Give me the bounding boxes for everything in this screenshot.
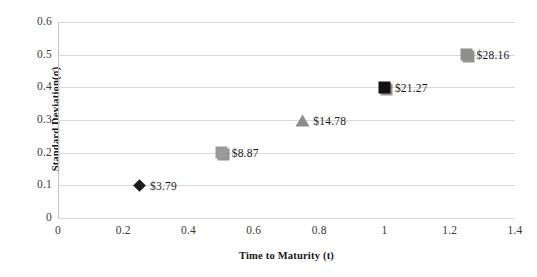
y-tick-label: 0.3 [6, 114, 52, 126]
marker-square-icon [378, 81, 390, 93]
x-axis-title: Time to Maturity (t) [58, 250, 515, 261]
x-tick-label: 1.2 [420, 224, 480, 236]
data-point-label: $14.78 [313, 114, 346, 126]
scatter-chart-figure: Standard Deviation(σ) 00.10.20.30.40.50.… [0, 0, 537, 277]
marker-square-icon [215, 147, 227, 159]
y-axis-tick-labels: 00.10.20.30.40.50.6 [0, 22, 52, 218]
x-tick-label: 0.8 [289, 224, 349, 236]
gridline-y-5 [58, 55, 515, 56]
gridline-y-6 [58, 22, 515, 23]
data-point-label: $21.27 [395, 81, 428, 93]
x-tick-label: 0.2 [93, 224, 153, 236]
y-tick-label: 0.6 [6, 16, 52, 28]
marker-square-icon [460, 49, 472, 61]
y-tick-label: 0.5 [6, 49, 52, 61]
y-tick-label: 0 [6, 212, 52, 224]
gridline-y-3 [58, 120, 515, 121]
marker-triangle-icon [296, 114, 310, 126]
x-tick-label: 1.4 [485, 224, 537, 236]
data-point[interactable]: $21.27 [384, 87, 385, 88]
gridline-y-1 [58, 185, 515, 186]
data-point-label: $8.87 [232, 147, 259, 159]
data-point-label: $3.79 [150, 179, 177, 191]
data-point-label: $28.16 [477, 49, 510, 61]
x-axis-tick-labels: 00.20.40.60.811.21.4 [58, 224, 515, 240]
x-tick-label: 0.4 [159, 224, 219, 236]
data-point[interactable]: $8.87 [221, 152, 222, 153]
x-tick-label: 0.6 [224, 224, 284, 236]
plot-area: $3.79$8.87$14.78$21.27$28.16 [58, 22, 515, 218]
y-tick-label: 0.4 [6, 82, 52, 94]
y-tick-label: 0.1 [6, 180, 52, 192]
gridline-y-4 [58, 87, 515, 88]
data-point[interactable]: $28.16 [466, 54, 467, 55]
data-point[interactable]: $14.78 [302, 120, 303, 121]
gridline-y-0 [58, 218, 515, 219]
data-point[interactable]: $3.79 [139, 185, 140, 186]
gridline-y-2 [58, 153, 515, 154]
y-tick-label: 0.2 [6, 147, 52, 159]
marker-diamond-icon [133, 179, 146, 192]
x-tick-label: 0 [28, 224, 88, 236]
x-tick-label: 1 [354, 224, 414, 236]
